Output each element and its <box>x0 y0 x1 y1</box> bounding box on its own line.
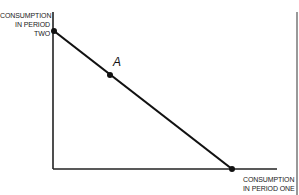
point-a-label: A <box>113 55 121 69</box>
y-axis-label-line2: IN PERIOD TWO <box>0 20 50 38</box>
y-axis-label: CONSUMPTION IN PERIOD TWO <box>0 11 50 38</box>
x-axis-label: CONSUMPTION IN PERIOD ONE <box>243 175 299 193</box>
x-axis-label-line2: IN PERIOD ONE <box>243 184 299 193</box>
intercept-point-y <box>51 28 57 34</box>
budget-line <box>54 31 232 169</box>
x-axis-label-line1: CONSUMPTION <box>243 175 299 184</box>
point-a <box>107 72 113 78</box>
y-axis-label-line1: CONSUMPTION <box>0 11 50 20</box>
intercept-point-x <box>229 166 235 172</box>
